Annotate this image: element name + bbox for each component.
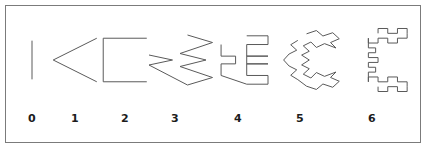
curve-figure-1 <box>48 10 102 110</box>
iteration-cell-6: 6 <box>332 6 412 142</box>
curve-figure-6 <box>332 10 412 110</box>
curve-figure-3 <box>144 10 206 110</box>
iteration-label-5: 5 <box>264 112 336 126</box>
iteration-cell-5: 5 <box>264 6 336 142</box>
curve-figure-5 <box>264 10 336 110</box>
curve-polyline <box>53 38 97 82</box>
curve-figure-4 <box>208 10 268 110</box>
iteration-cell-4: 4 <box>208 6 268 142</box>
figure-panel: 0123456 <box>5 5 421 143</box>
iteration-label-6: 6 <box>332 112 412 126</box>
iteration-label-1: 1 <box>48 112 102 126</box>
curve-polyline <box>149 35 213 85</box>
iteration-cell-3: 3 <box>144 6 206 142</box>
curve-polyline <box>368 28 407 91</box>
iteration-row: 0123456 <box>6 6 420 142</box>
curve-polyline <box>284 31 340 90</box>
curve-polyline <box>221 36 268 84</box>
iteration-label-4: 4 <box>208 112 268 126</box>
iteration-cell-1: 1 <box>48 6 102 142</box>
curve-polyline <box>103 38 147 82</box>
iteration-label-3: 3 <box>144 112 206 126</box>
